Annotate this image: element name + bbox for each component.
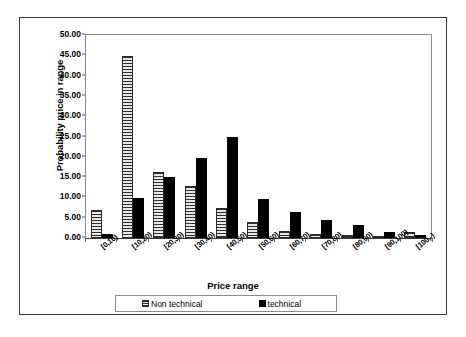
x-tick-label-cell: [60,70) [274,242,306,282]
chart-figure: Probability price in range 0.005.0010.00… [19,17,447,315]
y-axis-tick-labels: 0.005.0010.0015.0020.0025.0030.0035.0040… [40,18,85,314]
y-tick-label: 10.00 [60,192,81,201]
legend-item-technical: technical [259,299,302,309]
x-tick-label-cell: [20,30) [148,242,180,282]
bar-group [243,35,274,238]
y-tick-label: 25.00 [60,131,81,140]
bar-group [211,35,242,238]
bar-non-technical [216,208,227,238]
x-tick-label-cell: [80,90) [337,242,369,282]
plot-area [85,34,432,239]
bar-technical [258,199,269,238]
bar-group [306,35,337,238]
x-tick-label-cell: [50,60) [243,242,275,282]
bar-technical [196,158,207,238]
hatched-swatch-icon [142,300,149,307]
bar-group [180,35,211,238]
x-tick-label-cell: [10,20) [117,242,149,282]
y-tick-label: 15.00 [60,172,81,181]
bar-non-technical [185,186,196,238]
y-tick-label: 5.00 [64,212,81,221]
y-tick-label: 50.00 [60,30,81,39]
bar-group [337,35,368,238]
bar-group [149,35,180,238]
x-tick-label-cell: [90,100) [369,242,401,282]
x-tick-label-cell: [100,-) [400,242,432,282]
legend-label-technical: technical [268,299,302,309]
bar-non-technical [122,56,133,238]
bar-group [117,35,148,238]
bar-group [86,35,117,238]
y-tick-label: 20.00 [60,152,81,161]
bar-non-technical [91,210,102,238]
y-tick-label: 0.00 [64,233,81,242]
x-axis-title: Price range [20,280,446,291]
bar-technical [227,137,238,238]
bar-group [274,35,305,238]
x-axis-tick-labels: [0,10)[10,20)[20,30)[30,40)[40,50)[50,60… [85,242,432,282]
chart-legend: Non technical technical [115,295,337,312]
x-tick-label-cell: [40,50) [211,242,243,282]
x-tick-label-cell: [70,80) [306,242,338,282]
bar-non-technical [153,172,164,238]
legend-label-non-technical: Non technical [151,299,203,309]
legend-item-non-technical: Non technical [142,299,203,309]
bar-group [368,35,399,238]
bar-non-technical [247,222,258,238]
y-tick-label: 35.00 [60,91,81,100]
y-tick-label: 30.00 [60,111,81,120]
solid-black-swatch-icon [259,300,266,307]
bar-groups [86,35,431,238]
bar-group [400,35,431,238]
bar-technical [133,198,144,238]
x-tick-label-cell: [0,10) [85,242,117,282]
y-tick-label: 40.00 [60,70,81,79]
bar-technical [164,177,175,238]
y-tick-label: 45.00 [60,50,81,59]
x-tick-label-cell: [30,40) [180,242,212,282]
